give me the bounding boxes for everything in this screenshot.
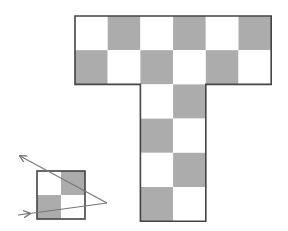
t-cell: [140, 153, 173, 187]
t-cell: [173, 84, 206, 118]
t-cell: [108, 16, 141, 50]
small-square-cell: [37, 195, 61, 219]
t-cell: [140, 16, 173, 50]
t-cell: [140, 50, 173, 84]
t-cell: [75, 16, 108, 50]
t-cell: [173, 119, 206, 153]
t-cell: [140, 187, 173, 221]
t-cell: [173, 16, 206, 50]
t-cell: [206, 16, 239, 50]
diagram-canvas: [0, 0, 288, 231]
t-shape-checkerboard: [75, 16, 271, 221]
t-cell: [108, 50, 141, 84]
t-cell: [239, 50, 272, 84]
t-cell: [140, 84, 173, 118]
small-square-cell: [37, 171, 61, 195]
small-square-cell: [61, 171, 85, 195]
t-cell: [239, 16, 272, 50]
t-cell: [173, 50, 206, 84]
t-cell: [75, 50, 108, 84]
t-cell: [173, 187, 206, 221]
t-cell: [206, 50, 239, 84]
t-cell: [140, 119, 173, 153]
t-cell: [173, 153, 206, 187]
